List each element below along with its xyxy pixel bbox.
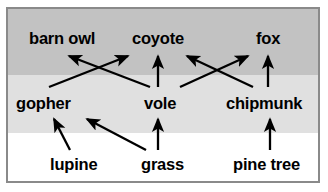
organism-label-grass: grass	[141, 156, 184, 173]
arrow-chipmunk-to-coyote	[187, 56, 253, 87]
organism-label-lupine: lupine	[50, 156, 97, 173]
diagram-frame: barn owl coyote fox gopher vole chipmunk…	[6, 7, 320, 183]
organism-label-barn-owl: barn owl	[29, 30, 95, 47]
arrow-grass-to-gopher	[87, 119, 146, 150]
arrow-lupine-to-gopher	[54, 119, 70, 150]
arrow-vole-to-fox	[180, 56, 248, 87]
arrow-vole-to-barn-owl	[69, 56, 150, 87]
arrow-gopher-to-coyote	[49, 56, 128, 87]
food-web-figure: barn owl coyote fox gopher vole chipmunk…	[0, 0, 328, 192]
organism-label-pine-tree: pine tree	[233, 156, 300, 173]
organism-label-chipmunk: chipmunk	[226, 95, 302, 112]
organism-label-vole: vole	[144, 95, 176, 112]
organism-label-fox: fox	[256, 30, 280, 47]
organism-label-gopher: gopher	[16, 95, 71, 112]
organism-label-coyote: coyote	[132, 30, 184, 47]
